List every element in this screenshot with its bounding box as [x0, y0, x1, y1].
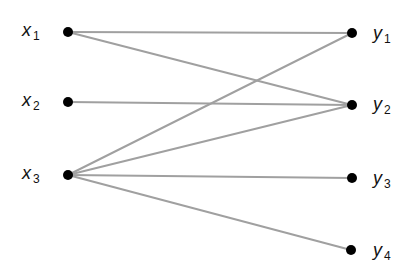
node-y1: [347, 28, 357, 38]
bipartite-graph: [0, 0, 417, 273]
node-x1: [63, 27, 73, 37]
label-y1: y1: [373, 24, 391, 45]
edge-x3-y2: [68, 105, 352, 175]
node-y3: [347, 173, 357, 183]
edge-x3-y3: [68, 175, 352, 178]
label-x1: x1: [22, 21, 40, 42]
edge-x3-y4: [68, 175, 351, 250]
node-x3: [63, 170, 73, 180]
edges: [68, 32, 352, 250]
label-y3: y3: [373, 169, 391, 190]
edge-x1-y2: [68, 32, 352, 105]
node-y4: [346, 245, 356, 255]
node-x2: [63, 97, 73, 107]
node-y2: [347, 100, 357, 110]
label-y4: y4: [373, 241, 391, 262]
edge-x1-y1: [68, 32, 352, 33]
label-y2: y2: [373, 95, 391, 116]
label-x3: x3: [22, 164, 40, 185]
label-x2: x2: [22, 91, 40, 112]
